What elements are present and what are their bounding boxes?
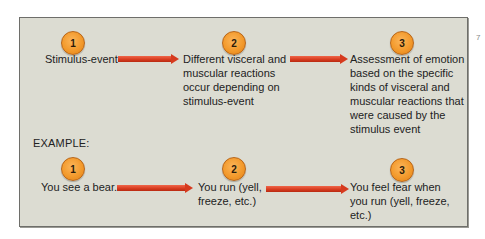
text-line: Stimulus-event: [45, 52, 118, 66]
example-step-2-number: 2: [231, 164, 237, 175]
example-step-2-badge: 2: [222, 157, 246, 181]
text-line: were caused by the: [350, 108, 464, 122]
right-arrow-icon: [266, 184, 349, 194]
example-step-1-number: 1: [70, 164, 76, 175]
text-line: kinds of visceral and: [350, 80, 464, 94]
right-arrow-icon: [118, 54, 179, 64]
step-1-number: 1: [70, 38, 76, 49]
example-label: EXAMPLE:: [33, 137, 90, 149]
text-line: Assessment of emotion: [350, 52, 464, 66]
text-line: muscular reactions: [183, 66, 286, 80]
text-line: You feel fear when: [350, 180, 450, 194]
text-line: You run (yell,: [198, 180, 262, 194]
example-step-3-text: You feel fear when you run (yell, freeze…: [350, 180, 450, 222]
text-line: stimulus event: [350, 122, 464, 136]
text-line: freeze, etc.): [198, 194, 262, 208]
text-line: etc.): [350, 208, 450, 222]
example-step-3-number: 3: [399, 165, 405, 176]
step-3-text: Assessment of emotion based on the speci…: [350, 52, 464, 136]
step-2-text: Different visceral and muscular reaction…: [183, 52, 286, 108]
text-line: you run (yell, freeze,: [350, 194, 450, 208]
text-line: Different visceral and: [183, 52, 286, 66]
margin-mark: 7: [476, 33, 480, 42]
example-step-3-badge: 3: [390, 158, 414, 182]
text-line: based on the specific: [350, 66, 464, 80]
text-line: occur depending on: [183, 80, 286, 94]
example-step-2-text: You run (yell, freeze, etc.): [198, 180, 262, 208]
step-1-text: Stimulus-event: [45, 52, 118, 66]
right-arrow-icon: [290, 54, 348, 64]
text-line: stimulus-event: [183, 94, 286, 108]
step-2-number: 2: [231, 38, 237, 49]
example-step-1-text: You see a bear.: [41, 180, 117, 194]
step-3-number: 3: [399, 38, 405, 49]
text-line: You see a bear.: [41, 180, 117, 194]
example-step-1-badge: 1: [61, 157, 85, 181]
text-line: muscular reactions that: [350, 94, 464, 108]
right-arrow-icon: [117, 183, 193, 193]
